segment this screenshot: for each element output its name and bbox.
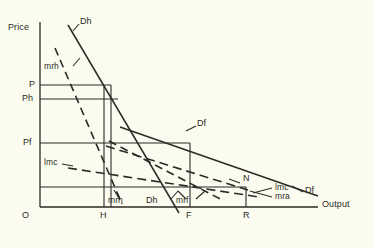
curve-label-Df-right: Df [305,186,314,195]
curve-label-mra: mra [275,192,290,201]
marginal-curves [55,48,259,204]
curve-lmc [68,168,259,197]
x-tick-label-F: F [186,211,192,220]
label-leader-lines [62,24,303,200]
y-axis-label: Price [8,23,29,32]
economics-diagram: Price Output O P Ph Pf H F R Dh Dh Df Df… [0,0,374,248]
curve-label-lmc-left: lmc [44,158,58,167]
curve-label-Dh-bottom: Dh [146,196,158,205]
curve-mra [106,146,248,190]
leader-Df-right [292,186,303,192]
x-tick-label-R: R [243,211,250,220]
y-tick-label-P: P [29,80,35,89]
y-tick-label-Ph: Ph [22,94,33,103]
leader-Dh-top [73,24,79,31]
leader-Df-mid [186,126,196,131]
x-tick-label-H: H [100,211,107,220]
curve-label-mrf: mrf [176,196,189,205]
point-label-N: N [243,174,250,183]
curve-label-mrh-bottom: mrh [108,196,123,205]
leader-lmc-left [62,164,73,166]
curve-label-Dh-top: Dh [80,17,92,26]
leader-N [229,179,240,183]
leader-mrh-top [73,58,80,66]
axes-group [40,22,318,207]
curve-Dh [68,25,179,213]
leader-mrf-bottom [196,191,205,199]
curve-label-Df-mid: Df [197,119,206,128]
curve-mrh [55,48,122,204]
y-tick-label-Pf: Pf [23,138,32,147]
price-guide-lines [40,85,246,187]
curve-label-mrh-top: mrh [44,62,59,71]
origin-label: O [22,211,29,220]
x-axis-label: Output [322,200,350,209]
